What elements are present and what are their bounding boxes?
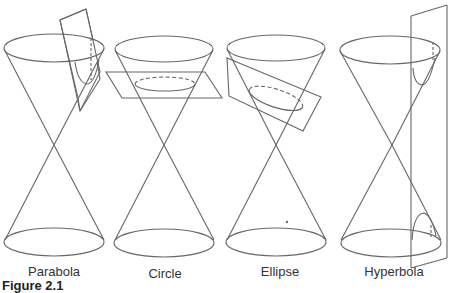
label-hyperbola: Hyperbola — [364, 264, 423, 279]
label-circle: Circle — [148, 266, 181, 281]
label-ellipse: Ellipse — [261, 264, 299, 279]
label-parabola: Parabola — [28, 264, 80, 279]
ellipse-cone — [226, 35, 326, 256]
figure-caption: Figure 2.1 — [2, 278, 63, 293]
parabola-cone — [4, 9, 104, 256]
circle-cone — [106, 36, 222, 257]
hyperbola-cone — [340, 5, 447, 268]
